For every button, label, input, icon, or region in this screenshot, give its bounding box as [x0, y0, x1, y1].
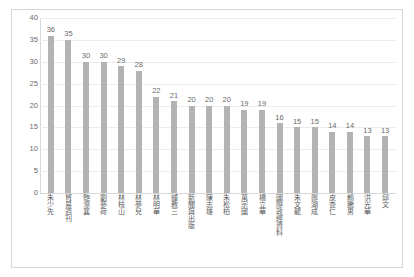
x-axis-label-slot: 皮查仁	[324, 194, 342, 264]
bar[interactable]	[277, 123, 283, 193]
bar-slot: 20	[183, 18, 201, 193]
bar[interactable]	[171, 101, 177, 193]
bar[interactable]	[136, 71, 142, 194]
x-axis-label-slot: 國際政經資料	[271, 194, 289, 264]
bar-slot: 19	[253, 18, 271, 193]
x-axis-label-slot: 鍾教三	[165, 194, 183, 264]
y-axis: 0510152025303540	[16, 18, 38, 193]
bar[interactable]	[364, 136, 370, 193]
bar[interactable]	[241, 110, 247, 193]
bar[interactable]	[48, 36, 54, 194]
y-axis-tick-label: 35	[16, 36, 38, 44]
y-axis-tick-label: 15	[16, 124, 38, 132]
x-axis-label-slot: 邱文	[376, 194, 394, 264]
bar[interactable]	[153, 97, 159, 193]
bar-slot: 29	[112, 18, 130, 193]
x-axis-label-slot: 楊立華	[253, 194, 271, 264]
bar-value-label: 22	[152, 87, 160, 95]
y-axis-tick-label: 10	[16, 146, 38, 154]
bar-value-label: 30	[99, 52, 107, 60]
x-axis-category-label: 貿易週刊	[65, 194, 72, 222]
bar[interactable]	[224, 106, 230, 194]
bar-value-label: 29	[117, 57, 125, 65]
y-axis-tick-label: 40	[16, 14, 38, 22]
x-axis-category-label: 洪光華	[364, 194, 371, 215]
bar-slot: 15	[288, 18, 306, 193]
bar-value-label: 21	[170, 92, 178, 100]
bar-slot: 22	[148, 18, 166, 193]
bar-slot: 30	[77, 18, 95, 193]
bar[interactable]	[329, 132, 335, 193]
x-axis-category-label: 朱少先	[47, 194, 54, 215]
bar[interactable]	[312, 127, 318, 193]
bar-slot: 15	[306, 18, 324, 193]
bar-value-label: 35	[64, 30, 72, 38]
x-axis-label-slot: 鄭湖成	[306, 194, 324, 264]
x-axis-label-slot: 萬宗國	[236, 194, 254, 264]
bar-slot: 36	[42, 18, 60, 193]
bar[interactable]	[189, 106, 195, 194]
bar[interactable]	[83, 62, 89, 193]
x-axis-label-slot: 林枝山	[112, 194, 130, 264]
bar[interactable]	[206, 106, 212, 194]
bar[interactable]	[65, 40, 71, 193]
bar-slot: 20	[200, 18, 218, 193]
x-axis-category-label: 朱文龍	[293, 194, 300, 215]
bar[interactable]	[259, 110, 265, 193]
bar-value-label: 13	[363, 127, 371, 135]
bar-value-label: 16	[275, 114, 283, 122]
x-axis-label-slot: 陳志雄	[200, 194, 218, 264]
x-axis-category-label: 匏漈襄	[82, 194, 89, 215]
bar[interactable]	[294, 127, 300, 193]
bar-value-label: 15	[311, 118, 319, 126]
x-axis-label-slot: 林明華	[148, 194, 166, 264]
x-axis-category-label: 楊立華	[258, 194, 265, 215]
bar-slot: 16	[271, 18, 289, 193]
bar-value-label: 20	[187, 96, 195, 104]
bar-slot: 20	[218, 18, 236, 193]
x-axis-label-slot: 朱少先	[42, 194, 60, 264]
bar-slot: 21	[165, 18, 183, 193]
x-axis-category-label: 林明華	[153, 194, 160, 215]
bar-slot: 14	[341, 18, 359, 193]
x-axis-label-slot: 新聞與出版	[183, 194, 201, 264]
bar-value-label: 20	[205, 96, 213, 104]
x-axis-label-slot: 貿易週刊	[60, 194, 78, 264]
x-axis-category-label: 林枝山	[118, 194, 125, 215]
bar-value-label: 19	[240, 100, 248, 108]
x-axis-label-slot: 林夢兒	[130, 194, 148, 264]
bar[interactable]	[101, 62, 107, 193]
x-axis-category-label: 國際政經資料	[276, 194, 283, 236]
bar[interactable]	[347, 132, 353, 193]
bar-value-label: 14	[346, 122, 354, 130]
bar-slot: 28	[130, 18, 148, 193]
bar-series: 3635303029282221202020191916151514141313	[40, 18, 396, 193]
x-axis-label-slot: 洪光華	[359, 194, 377, 264]
x-axis-label-slot: 賴騰男	[341, 194, 359, 264]
bar-slot: 13	[359, 18, 377, 193]
bar-value-label: 28	[135, 61, 143, 69]
bar-value-label: 15	[293, 118, 301, 126]
x-axis-category-label: 邱文	[381, 194, 388, 208]
bar-value-label: 19	[258, 100, 266, 108]
x-axis-category-label: 鍾教三	[170, 194, 177, 215]
y-axis-tick-label: 25	[16, 80, 38, 88]
x-axis-category-label: 朱松柏	[223, 194, 230, 215]
bar-value-label: 36	[47, 26, 55, 34]
x-axis-labels: 朱少先貿易週刊匏漈襄劉夢荷林枝山林夢兒林明華鍾教三新聞與出版陳志雄朱松柏萬宗國楊…	[40, 194, 396, 264]
bar-slot: 30	[95, 18, 113, 193]
x-axis-category-label: 鄭湖成	[311, 194, 318, 215]
bar[interactable]	[118, 66, 124, 193]
plot-region: 3635303029282221202020191916151514141313	[40, 18, 396, 193]
bar-slot: 35	[60, 18, 78, 193]
x-axis-category-label: 皮查仁	[329, 194, 336, 215]
bar-slot: 14	[324, 18, 342, 193]
bar[interactable]	[382, 136, 388, 193]
x-axis-category-label: 劉夢荷	[100, 194, 107, 215]
bar-value-label: 20	[223, 96, 231, 104]
bar-slot: 19	[236, 18, 254, 193]
y-axis-tick-label: 0	[16, 189, 38, 197]
bar-slot: 13	[376, 18, 394, 193]
bar-value-label: 14	[328, 122, 336, 130]
x-axis-label-slot: 劉夢荷	[95, 194, 113, 264]
